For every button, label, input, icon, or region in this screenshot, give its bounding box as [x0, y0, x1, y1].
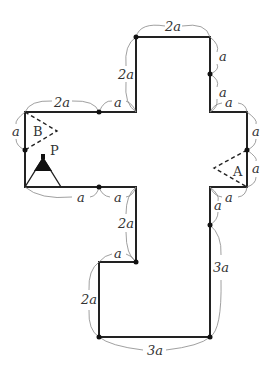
cross-figure: 2a a a 2a 2a a a a a a a a a a 2a a 2a 3…: [0, 0, 276, 381]
dim-left-arm-top-short: a: [114, 95, 122, 110]
label-a: A: [232, 164, 243, 179]
dim-lower-right-upper: a: [214, 198, 222, 213]
label-b: B: [33, 124, 43, 139]
dim-top-right-upper: a: [219, 49, 227, 64]
lamp-p-icon: [25, 154, 61, 187]
dim-left-arm-bottom-right: a: [114, 190, 122, 205]
dim-right-arm-upper: a: [252, 124, 260, 139]
dim-left-arm-top-long: 2a: [53, 95, 70, 110]
dim-right-arm-top: a: [225, 95, 233, 110]
dim-right-arm-lower: a: [252, 161, 260, 176]
dim-lower-step: a: [114, 246, 122, 261]
dim-bottom-3a: 3a: [147, 343, 163, 358]
dim-left-arm-bottom-left: a: [77, 190, 85, 205]
dim-left-arm-left: a: [12, 124, 20, 139]
dim-lower-left-inner: 2a: [117, 216, 134, 231]
dim-right-arm-bottom: a: [225, 190, 233, 205]
label-p: P: [50, 143, 59, 158]
dim-top-left-vertical: 2a: [117, 67, 134, 82]
dim-top-2a: 2a: [164, 19, 181, 34]
dim-lower-left-vertical: 2a: [80, 292, 97, 307]
dim-lower-right-vertical: 3a: [213, 260, 229, 275]
